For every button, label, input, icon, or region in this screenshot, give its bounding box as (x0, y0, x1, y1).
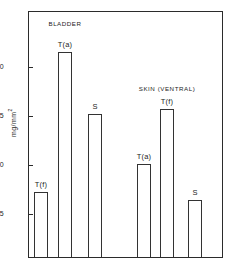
bar-label: T(a) (47, 40, 83, 49)
bar (188, 200, 202, 257)
bar (58, 52, 72, 257)
bar (160, 109, 174, 257)
y-tick-mark (28, 116, 33, 117)
y-tick-label: 20 (0, 62, 4, 71)
y-tick-mark (28, 165, 33, 166)
bar (137, 164, 151, 257)
bar-label: T(a) (126, 152, 162, 161)
y-tick-label: 15 (0, 111, 4, 120)
bar (34, 192, 48, 257)
bar-label: T(f) (149, 97, 185, 106)
chart-figure: mg/mm2 2015105 BLADDERSKIN (VENTRAL) T(f… (0, 0, 232, 267)
group-title: SKIN (VENTRAL) (122, 85, 212, 92)
y-tick-label: 5 (0, 209, 4, 218)
bar-label: S (177, 188, 213, 197)
bar-label: S (77, 102, 113, 111)
y-axis-label: mg/mm2 (7, 100, 16, 146)
y-tick-mark (28, 214, 33, 215)
y-axis-label-text: mg/mm (10, 112, 17, 137)
y-tick-mark (28, 67, 33, 68)
y-tick-label: 10 (0, 160, 4, 169)
bar (88, 114, 102, 257)
group-title: BLADDER (20, 20, 110, 27)
y-axis-label-exponent: 2 (7, 108, 13, 111)
bar-label: T(f) (23, 180, 59, 189)
